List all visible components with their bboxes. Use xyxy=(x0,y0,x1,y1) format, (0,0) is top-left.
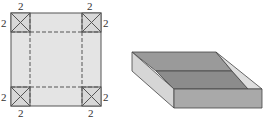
label-bottom-right: 2 xyxy=(88,107,94,118)
corner-cut-top-right xyxy=(82,13,101,32)
label-top-right: 2 xyxy=(87,0,93,12)
label-left-bottom: 2 xyxy=(1,91,7,103)
label-right-bottom: 2 xyxy=(103,91,109,103)
net-figure: 2 2 2 2 2 2 2 2 xyxy=(1,0,109,118)
label-right-top: 2 xyxy=(103,17,109,29)
open-box-figure xyxy=(132,52,262,108)
corner-cut-bottom-right xyxy=(82,87,101,106)
diagram-canvas: 2 2 2 2 2 2 2 2 xyxy=(0,0,265,118)
label-top-left: 2 xyxy=(18,0,24,12)
label-bottom-left: 2 xyxy=(18,107,24,118)
corner-cut-bottom-left xyxy=(11,87,30,106)
box-front-wall xyxy=(174,89,262,108)
label-left-top: 2 xyxy=(1,17,7,29)
corner-cut-top-left xyxy=(11,13,30,32)
